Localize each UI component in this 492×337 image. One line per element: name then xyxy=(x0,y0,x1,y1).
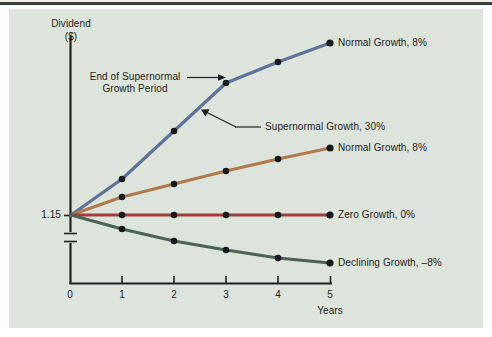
data-point xyxy=(171,238,178,245)
xtick-label-1: 1 xyxy=(109,289,135,301)
annotation-supernormal-leader xyxy=(201,109,261,127)
y-axis-title-line2: ($) xyxy=(32,31,110,43)
data-point-end xyxy=(326,211,333,218)
data-point xyxy=(223,247,230,254)
data-point xyxy=(275,59,282,66)
xtick-label-3: 3 xyxy=(213,289,239,301)
data-point xyxy=(223,212,230,219)
chart-figure: Dividend ($) 1.15 0 1 2 3 4 5 Years Norm… xyxy=(0,0,492,337)
y-axis xyxy=(64,36,77,284)
series-declining-growth xyxy=(71,215,334,267)
data-point xyxy=(223,80,230,87)
xtick-label-5: 5 xyxy=(317,289,343,301)
data-point xyxy=(119,212,126,219)
annotation-end-supernormal-line1: End of Supernormal xyxy=(85,71,185,83)
data-point xyxy=(171,212,178,219)
data-point xyxy=(119,194,126,201)
data-point-end xyxy=(326,39,333,46)
x-axis-title: Years xyxy=(300,305,360,317)
annotation-end-of-supernormal-leader xyxy=(187,74,226,81)
y-axis-title-line1: Dividend xyxy=(32,18,110,30)
xtick-label-2: 2 xyxy=(161,289,187,301)
series-label-normal: Normal Growth, 8% xyxy=(338,142,427,154)
data-point xyxy=(275,156,282,163)
series-label-declining: Declining Growth, –8% xyxy=(338,257,442,269)
y-axis-value-label: 1.15 xyxy=(18,209,61,221)
xtick-label-0: 0 xyxy=(57,289,83,301)
series-normal-growth xyxy=(71,144,334,215)
data-point xyxy=(223,168,230,175)
chart-canvas xyxy=(0,0,492,337)
annotation-supernormal-growth: Supernormal Growth, 30% xyxy=(265,121,385,133)
data-point-end xyxy=(326,259,333,266)
data-point xyxy=(275,212,282,219)
xtick-label-4: 4 xyxy=(265,289,291,301)
series-label-supernormal-end: Normal Growth, 8% xyxy=(338,37,427,49)
series-zero-growth xyxy=(71,211,334,218)
series-label-zero: Zero Growth, 0% xyxy=(338,209,415,221)
data-point xyxy=(119,176,126,183)
data-point-end xyxy=(326,144,333,151)
data-point xyxy=(171,181,178,188)
data-point xyxy=(119,226,126,233)
annotation-end-supernormal-line2: Growth Period xyxy=(85,83,185,95)
data-point xyxy=(275,255,282,262)
data-point xyxy=(171,128,178,135)
x-axis xyxy=(70,276,333,284)
